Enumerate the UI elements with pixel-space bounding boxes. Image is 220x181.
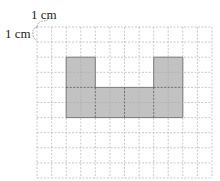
unit-label-top: 1 cm — [31, 8, 57, 21]
grid-diagram — [0, 0, 220, 181]
unit-label-left: 1 cm — [5, 27, 31, 40]
